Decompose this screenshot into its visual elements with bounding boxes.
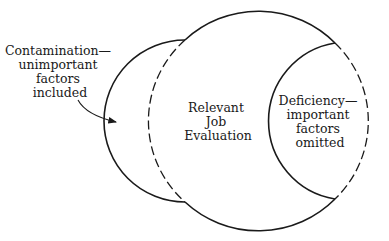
relevant-circle-solid-top-arc	[185, 11, 335, 43]
relevant-job-evaluation-label: Relevant Job Evaluation	[184, 100, 252, 143]
relevant-circle-solid-bottom-arc	[185, 199, 335, 231]
deficiency-label: Deficiency— important factors omitted	[279, 93, 362, 150]
contamination-label: Contamination— unimportant factors inclu…	[5, 43, 115, 100]
contamination-circle-solid-arc	[104, 40, 185, 202]
contamination-pointer-arrow	[78, 100, 116, 122]
job-evaluation-diagram: Contamination— unimportant factors inclu…	[0, 0, 389, 241]
relevant-circle-dashed-left-arc	[148, 40, 185, 202]
